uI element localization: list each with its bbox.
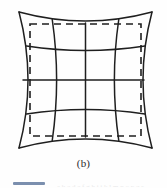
distortion-grid-svg	[0, 0, 167, 155]
distortion-grid-panel	[0, 0, 167, 155]
figure-container: (b) a b c d e f g h i j k l m n o p q r	[0, 0, 167, 188]
figure-caption-row: (b)	[0, 152, 167, 174]
bleed-rule-bar	[13, 182, 45, 185]
figure-caption-label: (b)	[77, 158, 90, 169]
bleed-ghost-text: a b c d e f g h i j k l m n o p q r	[57, 183, 161, 187]
page-bleed-strip: a b c d e f g h i j k l m n o p q r	[0, 176, 167, 188]
